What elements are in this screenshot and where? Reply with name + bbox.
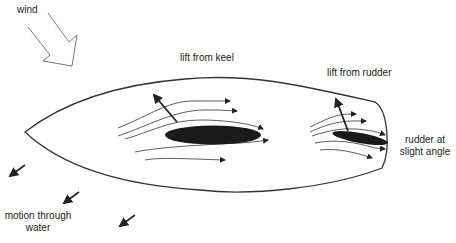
diagram-graphics [0, 0, 456, 243]
rudder-lift-arrow-icon [336, 99, 348, 131]
keel-foil [165, 126, 261, 145]
lift-from-keel-label: lift from keel [180, 52, 234, 64]
motion-arrow-icon [120, 215, 135, 226]
motion-arrow-icon [64, 192, 79, 203]
wind-label: wind [17, 4, 38, 16]
wind-arrow-icon [28, 13, 77, 66]
rudder-foil [332, 128, 389, 148]
motion-line1: motion through [0, 210, 76, 222]
rudder-angle-line2: slight angle [396, 146, 454, 158]
motion-line2: water [0, 222, 76, 234]
rudder-angle-label: rudder at slight angle [396, 134, 454, 158]
lift-from-rudder-label: lift from rudder [327, 67, 391, 79]
sailboat-lift-diagram: wind lift from keel lift from rudder rud… [0, 0, 456, 243]
rudder-angle-line1: rudder at [396, 134, 454, 146]
motion-arrow-icon [10, 165, 25, 176]
motion-through-water-label: motion through water [0, 210, 76, 234]
